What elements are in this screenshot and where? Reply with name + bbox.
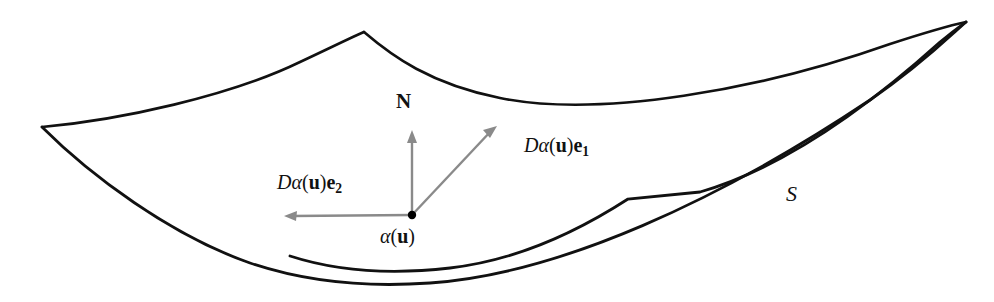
tangent-e2-u: u: [309, 171, 320, 193]
tangent-e1-D: D: [524, 134, 538, 156]
tangent-e1-index: 1: [582, 144, 589, 159]
tangent-e2-e: e: [326, 171, 335, 193]
tangent-e2-label: Dα(u)e2: [277, 172, 342, 195]
tangent-e1-label: Dα(u)e1: [524, 135, 589, 158]
tangent-e1-open-paren: (: [549, 134, 556, 156]
normal-vector-arrow: [407, 130, 417, 215]
surface-diagram: N Dα(u)e1 Dα(u)e2 α(u) S: [0, 0, 994, 302]
tangent-e2-alpha: α: [291, 171, 302, 193]
tangent-e1-u: u: [556, 134, 567, 156]
base-point-marker: [408, 211, 416, 219]
surface-top-right-edge: [364, 22, 966, 105]
tangent-e2-open-paren: (: [302, 171, 309, 193]
base-point-u: u: [397, 225, 408, 247]
tangent-e1-alpha: α: [538, 134, 549, 156]
base-point-label: α(u): [380, 226, 415, 246]
normal-vector-label: N: [396, 91, 411, 112]
base-point-close-paren: ): [408, 225, 415, 247]
tangent-e2-D: D: [277, 171, 291, 193]
base-point-alpha: α: [380, 225, 391, 247]
tangent-e2-index: 2: [335, 181, 342, 196]
surface-top-left-edge: [42, 32, 364, 127]
surface-front-edge: [42, 22, 966, 284]
tangent-e2-arrow: [284, 211, 412, 221]
tangent-e1-arrow: [412, 126, 497, 215]
surface-label: S: [786, 183, 797, 205]
tangent-e1-e: e: [573, 134, 582, 156]
surface-drawing: [0, 0, 994, 302]
